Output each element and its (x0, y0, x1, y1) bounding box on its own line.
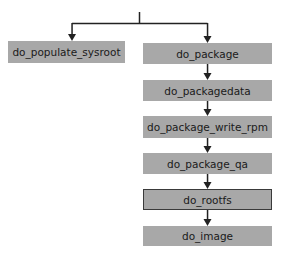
arrow-down-icon (68, 34, 76, 41)
node-do-package-write-rpm: do_package_write_rpm (143, 116, 272, 138)
node-do-package: do_package (143, 43, 272, 64)
node-do-image: do_image (143, 226, 272, 246)
arrow-down-icon (204, 146, 212, 153)
node-do-package-qa: do_package_qa (143, 153, 272, 174)
node-do-rootfs: do_rootfs (143, 189, 272, 210)
node-do-populate-sysroot: do_populate_sysroot (8, 41, 125, 63)
arrow-down-icon (204, 219, 212, 226)
arrow-down-icon (204, 73, 212, 80)
node-do-packagedata: do_packagedata (143, 80, 272, 101)
arrow-down-icon (204, 36, 212, 43)
arrow-down-icon (204, 182, 212, 189)
arrow-down-icon (204, 109, 212, 116)
